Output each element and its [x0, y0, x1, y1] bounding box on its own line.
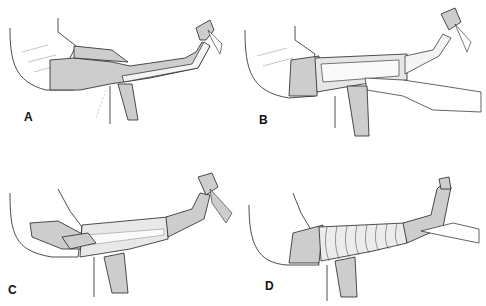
panel-label-b: B — [259, 113, 268, 127]
panel-a-illustration — [0, 0, 243, 153]
panel-b: B — [243, 0, 486, 153]
panel-d: D — [243, 153, 486, 306]
panel-label-d: D — [265, 279, 274, 293]
panel-d-illustration — [243, 153, 486, 306]
panel-label-c: C — [8, 283, 17, 297]
panel-c: C — [0, 153, 243, 306]
panel-c-illustration — [0, 153, 243, 306]
panel-b-illustration — [243, 0, 486, 153]
panel-label-a: A — [24, 110, 33, 124]
panel-a: A — [0, 0, 243, 153]
